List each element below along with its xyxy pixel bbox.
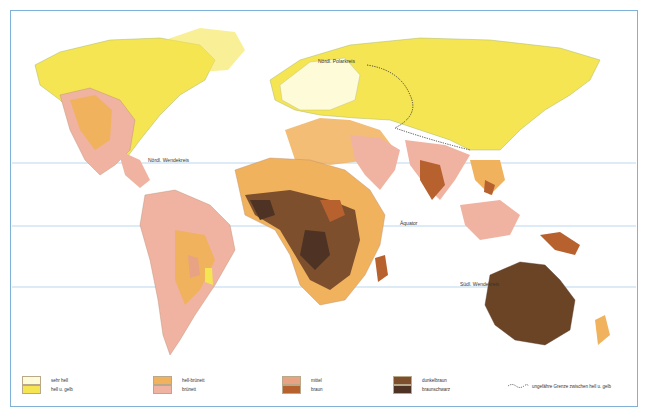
legend-item-dunkelbraun: dunkelbraun <box>393 376 447 385</box>
south-america-region <box>140 190 235 355</box>
tropic-capricorn-label: Südl. Wendekreis <box>460 281 499 287</box>
tropic-cancer-label: Nördl. Wendekreis <box>148 157 189 163</box>
swatch <box>22 376 41 385</box>
legend-item-braunschwarz: braunschwarz <box>393 385 450 394</box>
legend-item-boundary: ungefähre Grenze zwischen hell u. gelb <box>507 383 611 389</box>
north-america-region <box>35 28 245 188</box>
equator-label: Äquator <box>400 220 418 226</box>
swatch <box>153 376 172 385</box>
dotted-line-icon <box>507 383 529 389</box>
swatch <box>393 385 412 394</box>
legend-item-hell-gelb: hell u. gelb <box>22 385 73 394</box>
legend-item-sehr-hell: sehr hell <box>22 376 68 385</box>
australia-region <box>485 232 610 345</box>
africa-region <box>235 158 388 305</box>
swatch <box>153 385 172 394</box>
swatch <box>282 385 301 394</box>
arctic-circle-label: Nördl. Polarkreis <box>318 58 355 64</box>
legend-item-bruenett: brünett <box>153 385 196 394</box>
legend-item-mittel: mittel <box>282 376 322 385</box>
legend-item-braun: braun <box>282 385 323 394</box>
legend-item-hell-bruenett: hell-brünett <box>153 376 205 385</box>
swatch <box>22 385 41 394</box>
swatch <box>282 376 301 385</box>
swatch <box>393 376 412 385</box>
legend: sehr hell hell u. gelb hell-brünett brün… <box>22 376 632 402</box>
